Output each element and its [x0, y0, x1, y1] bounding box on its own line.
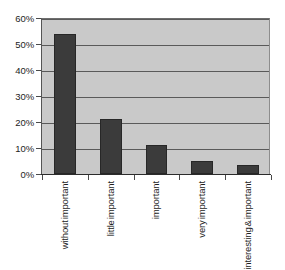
x-axis-label-line: interesting — [243, 227, 253, 269]
x-axis-tickmark — [225, 175, 226, 180]
x-axis-label-line: important — [60, 181, 70, 219]
x-axis-label: interesting&important — [225, 181, 271, 242]
x-axis-label-rotated: important — [151, 181, 161, 219]
y-axis-tick-label: 30% — [15, 91, 34, 102]
x-axis-label-line: important — [106, 181, 116, 219]
x-axis-label: important — [134, 181, 180, 242]
x-axis-label-line: little — [106, 220, 116, 236]
bar — [100, 119, 122, 174]
x-axis-label: littleimportant — [88, 181, 134, 242]
x-axis-tickmark — [179, 175, 180, 180]
bar — [237, 165, 259, 174]
x-axis-label-rotated: littleimportant — [106, 181, 116, 236]
bar — [54, 34, 76, 174]
x-axis-label-rotated: veryimportant — [197, 181, 207, 238]
x-axis-label-line: important — [151, 181, 161, 219]
x-axis-label-line: important — [243, 181, 253, 219]
x-axis-tickmark — [42, 175, 43, 180]
x-axis-label-line: very — [197, 220, 207, 237]
y-axis-tick-label: 50% — [15, 39, 34, 50]
y-axis-tick-label: 20% — [15, 117, 34, 128]
x-axis-line — [41, 174, 271, 175]
x-axis-label-line: without — [60, 220, 70, 249]
x-axis-tickmark — [88, 175, 89, 180]
x-axis-label-rotated: interesting&important — [243, 181, 253, 270]
bar-series — [42, 18, 270, 174]
y-axis-labels: 0%10%20%30%40%50%60% — [0, 14, 38, 174]
y-axis-tick-label: 60% — [15, 13, 34, 24]
x-axis-label-rotated: withoutimportant — [60, 181, 70, 249]
y-axis-tick-label: 40% — [15, 65, 34, 76]
x-axis-tickmark — [271, 175, 272, 180]
x-axis-label-line: important — [197, 181, 207, 219]
y-axis-tick-label: 10% — [15, 143, 34, 154]
bar — [191, 161, 213, 174]
x-axis-labels: withoutimportantlittleimportantimportant… — [42, 181, 270, 242]
x-axis-tickmark — [134, 175, 135, 180]
y-axis-tick-label: 0% — [20, 169, 34, 180]
x-axis-label: veryimportant — [179, 181, 225, 242]
bar — [146, 145, 168, 174]
x-axis-label: withoutimportant — [42, 181, 88, 242]
x-axis-label-line: & — [243, 220, 253, 226]
